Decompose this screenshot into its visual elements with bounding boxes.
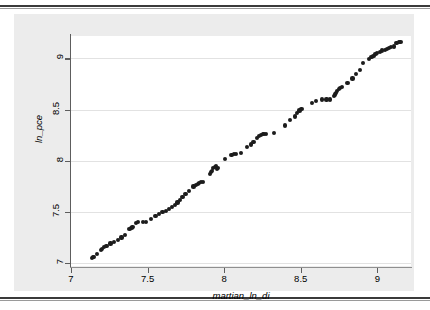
data-point [299,107,303,111]
gridline-y [71,110,411,111]
data-point [264,132,268,136]
x-tick-label: 9 [362,273,392,284]
graph-region: ln_pce martian_ln_di 77.588.5977.588.59 [14,14,414,291]
figure-page: ln_pce martian_ln_di 77.588.5977.588.59 [0,0,430,310]
y-tick-label: 8 [36,154,62,165]
y-tick [65,161,70,162]
y-tick [65,212,70,213]
data-point [130,225,134,229]
y-tick [65,263,70,264]
data-point [328,97,332,101]
top-rule [0,5,430,7]
data-point [398,40,402,44]
data-point [201,180,205,184]
data-point [149,217,153,221]
y-tick [65,110,70,111]
gridline-y [71,161,411,162]
x-axis-title: martian_ln_di [71,290,411,301]
data-point [320,97,324,101]
gridline-y [71,212,411,213]
x-tick-label: 7 [56,273,86,284]
data-point [293,114,297,118]
y-tick-label: 8.5 [36,103,62,114]
y-tick-label: 7.5 [36,205,62,216]
data-point [314,99,318,103]
data-point [392,44,396,48]
y-tick-label: 7 [36,256,62,267]
gridline-y [71,263,411,264]
x-tick-label: 8.5 [286,273,316,284]
y-tick-label: 9 [36,51,62,62]
gridline-y [71,58,411,59]
data-point [251,140,255,144]
data-point [283,123,287,127]
top-rule-secondary [0,8,430,9]
x-tick-label: 8 [209,273,239,284]
y-axis-line [70,34,71,268]
data-point [183,192,187,196]
data-point [272,131,276,135]
data-point [345,81,349,85]
x-tick-label: 7.5 [133,273,163,284]
x-axis-line [70,267,412,268]
y-tick [65,58,70,59]
data-point [350,76,354,80]
